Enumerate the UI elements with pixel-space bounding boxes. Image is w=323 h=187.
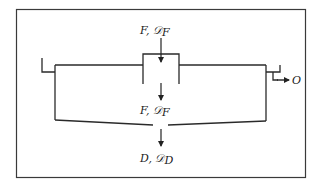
right-weir bbox=[266, 65, 280, 72]
underflow-label: D, 𝒟D bbox=[139, 152, 173, 167]
overflow-label: O bbox=[292, 74, 301, 87]
diagram-canvas: F, 𝒟F F, 𝒟F D, 𝒟D O bbox=[0, 0, 323, 187]
tank-bottom-right bbox=[168, 121, 266, 125]
left-weir bbox=[42, 58, 55, 72]
feed-mid-label: F, 𝒟F bbox=[139, 104, 170, 119]
overflow-spout bbox=[273, 72, 278, 80]
tank-bottom-left bbox=[55, 120, 153, 125]
thickener-diagram: F, 𝒟F F, 𝒟F D, 𝒟D O bbox=[0, 0, 323, 187]
feed-top-label: F, 𝒟F bbox=[139, 24, 170, 39]
